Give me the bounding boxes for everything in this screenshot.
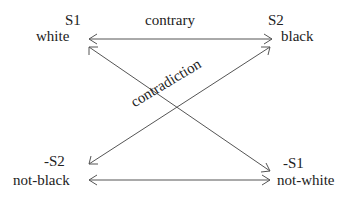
top-left-symbol: S1 (65, 13, 81, 28)
bottom-left-symbol: -S2 (44, 154, 65, 169)
bottom-right-term: not-white (277, 173, 335, 188)
top-left-term: white (36, 29, 69, 44)
contrary-label: contrary (145, 13, 195, 28)
top-right-term: black (281, 29, 313, 44)
top-right-symbol: S2 (268, 13, 284, 28)
bottom-left-term: not-black (13, 173, 70, 188)
bottom-right-symbol: -S1 (283, 156, 304, 171)
